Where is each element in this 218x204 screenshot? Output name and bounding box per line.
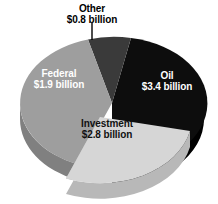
pie-chart: Other $0.8 billion Oil $3.4 billion Fede…: [0, 0, 218, 204]
pie-chart-graphic: [0, 0, 218, 204]
